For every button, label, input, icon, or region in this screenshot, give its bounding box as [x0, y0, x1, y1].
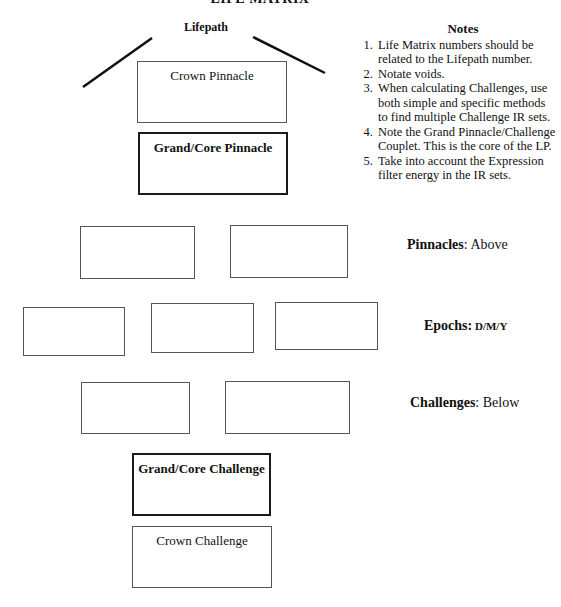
epochs-label-rest: D/M/Y [472, 320, 507, 332]
epoch-box-2[interactable] [151, 303, 254, 353]
epochs-row-label: Epochs: D/M/Y [424, 318, 507, 334]
pinnacle-box-1[interactable] [80, 226, 195, 279]
epochs-label-bold: Epochs: [424, 318, 472, 333]
page-title: LIFE MATRIX [180, 0, 340, 7]
challenge-box-2[interactable] [225, 381, 350, 434]
note-item: Life Matrix numbers should be related to… [376, 38, 558, 67]
challenges-label-bold: Challenges [410, 395, 475, 410]
pinnacles-label-bold: Pinnacles [407, 237, 464, 252]
note-item: When calculating Challenges, use both si… [376, 81, 558, 125]
challenges-label-rest: : Below [475, 395, 519, 410]
note-item: Take into account the Expression filter … [376, 154, 558, 183]
notes-panel: Notes Life Matrix numbers should be rela… [358, 22, 558, 183]
notes-title: Notes [358, 22, 558, 37]
epoch-box-3[interactable] [275, 302, 378, 350]
note-item: Note the Grand Pinnacle/Challenge Couple… [376, 125, 558, 154]
lifepath-label: Lifepath [184, 20, 228, 35]
grand-core-challenge-label: Grand/Core Challenge [138, 461, 265, 476]
grand-core-pinnacle-label: Grand/Core Pinnacle [154, 140, 273, 155]
crown-pinnacle-box[interactable]: Crown Pinnacle [137, 61, 287, 123]
notes-list: Life Matrix numbers should be related to… [358, 38, 558, 183]
crown-pinnacle-label: Crown Pinnacle [170, 68, 253, 83]
pinnacle-box-2[interactable] [230, 225, 348, 278]
grand-core-pinnacle-box[interactable]: Grand/Core Pinnacle [138, 132, 288, 195]
epoch-box-1[interactable] [23, 307, 125, 356]
pinnacles-row-label: Pinnacles: Above [407, 237, 508, 253]
crown-challenge-box[interactable]: Crown Challenge [132, 526, 272, 588]
challenge-box-1[interactable] [81, 382, 190, 434]
pinnacles-label-rest: : Above [464, 237, 508, 252]
challenges-row-label: Challenges: Below [410, 395, 519, 411]
grand-core-challenge-box[interactable]: Grand/Core Challenge [132, 453, 271, 516]
note-item: Notate voids. [376, 67, 558, 82]
crown-challenge-label: Crown Challenge [156, 533, 247, 548]
